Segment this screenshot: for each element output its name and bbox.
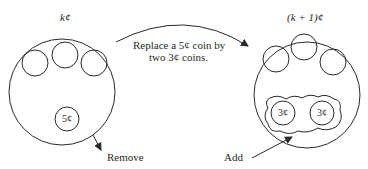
remove-label: Remove — [107, 151, 144, 163]
left-coin-top — [52, 42, 78, 68]
diagram-canvas — [0, 0, 368, 169]
right-coin-label-b: 3¢ — [310, 108, 334, 118]
left-coin-label: 5¢ — [55, 114, 79, 124]
transition-text-line1: Replace a 5¢ coin by — [133, 39, 225, 51]
right-coin-label-a: 3¢ — [271, 108, 295, 118]
right-coin-top — [291, 34, 317, 60]
right-pile-title: (k + 1)¢ — [287, 11, 323, 23]
add-label: Add — [224, 151, 243, 163]
left-coin-right — [81, 50, 107, 76]
left-coin-left — [22, 50, 48, 76]
add-arrow — [252, 137, 292, 158]
remove-arrow — [93, 135, 101, 150]
left-pile-title: k¢ — [60, 11, 70, 23]
right-coin-left — [263, 46, 289, 72]
transition-text-line2: two 3¢ coins. — [149, 51, 208, 63]
right-coin-right — [320, 49, 346, 75]
